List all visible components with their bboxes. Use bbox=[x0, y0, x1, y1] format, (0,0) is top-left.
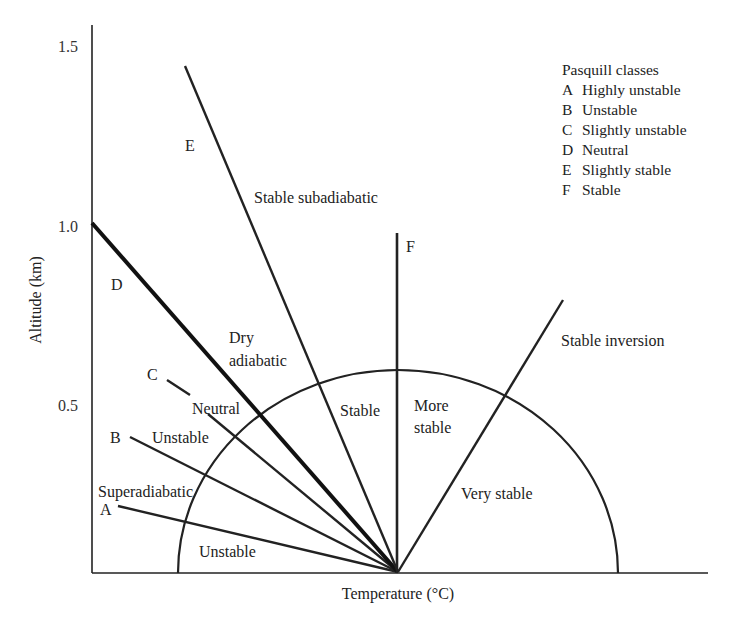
legend-code: D bbox=[562, 140, 582, 160]
x-axis-title: Temperature (°C) bbox=[342, 585, 454, 603]
code-d: D bbox=[111, 276, 123, 293]
legend-code: F bbox=[562, 180, 582, 200]
label-stable-subadiabatic: Stable subadiabatic bbox=[254, 189, 378, 206]
legend: Pasquill classes AHighly unstable BUnsta… bbox=[562, 60, 687, 200]
line-inversion bbox=[398, 300, 563, 572]
legend-code: B bbox=[562, 100, 582, 120]
label-more: More bbox=[414, 397, 449, 414]
legend-code: A bbox=[562, 80, 582, 100]
y-tick-1-0: 1.0 bbox=[58, 218, 78, 235]
code-f: F bbox=[406, 238, 415, 255]
legend-code: C bbox=[562, 120, 582, 140]
label-unstable-b: Unstable bbox=[152, 429, 209, 446]
legend-code: E bbox=[562, 160, 582, 180]
legend-item: ESlightly stable bbox=[562, 160, 687, 180]
line-e bbox=[185, 66, 398, 572]
label-adiabatic: adiabatic bbox=[229, 352, 287, 369]
line-a bbox=[118, 506, 398, 572]
legend-item: BUnstable bbox=[562, 100, 687, 120]
line-c-upper bbox=[167, 380, 190, 395]
label-more-stable: stable bbox=[414, 419, 451, 436]
label-dry: Dry bbox=[229, 329, 254, 347]
legend-label: Stable bbox=[582, 180, 621, 200]
line-b bbox=[130, 437, 398, 572]
label-superadiabatic: Superadiabatic bbox=[98, 483, 193, 501]
label-neutral: Neutral bbox=[192, 400, 241, 417]
code-c: C bbox=[147, 366, 158, 383]
y-tick-1-5: 1.5 bbox=[58, 38, 78, 55]
label-unstable-bottom: Unstable bbox=[199, 543, 256, 560]
y-axis-title: Altitude (km) bbox=[27, 256, 45, 344]
label-very-stable: Very stable bbox=[461, 485, 533, 503]
label-stable: Stable bbox=[340, 402, 380, 419]
legend-item: FStable bbox=[562, 180, 687, 200]
legend-label: Slightly unstable bbox=[582, 120, 687, 140]
y-tick-0-5: 0.5 bbox=[58, 397, 78, 414]
code-e: E bbox=[185, 137, 195, 154]
legend-label: Neutral bbox=[582, 140, 628, 160]
legend-label: Highly unstable bbox=[582, 80, 681, 100]
legend-label: Unstable bbox=[582, 100, 637, 120]
legend-item: CSlightly unstable bbox=[562, 120, 687, 140]
legend-title: Pasquill classes bbox=[562, 60, 687, 80]
code-a: A bbox=[100, 501, 112, 518]
legend-label: Slightly stable bbox=[582, 160, 671, 180]
label-stable-inversion: Stable inversion bbox=[561, 332, 665, 349]
legend-item: DNeutral bbox=[562, 140, 687, 160]
code-b: B bbox=[110, 429, 121, 446]
legend-item: AHighly unstable bbox=[562, 80, 687, 100]
line-d bbox=[92, 223, 398, 572]
